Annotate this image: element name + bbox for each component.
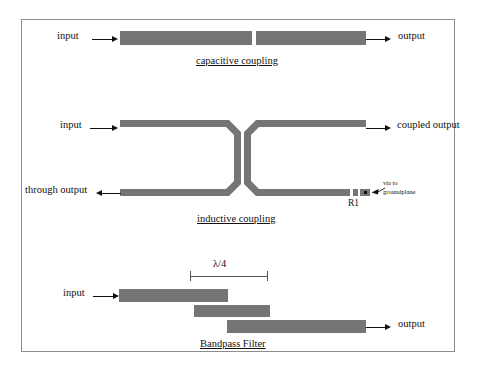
inductive-through-output-label: through output — [25, 185, 87, 196]
capacitive-output-arrow-icon — [385, 36, 391, 42]
capacitive-output-label: output — [398, 31, 425, 42]
capacitive-coupling-caption: capacitive coupling — [196, 56, 278, 67]
bandpass-output-label: output — [398, 319, 425, 330]
bandpass-output-arrow-icon — [385, 324, 391, 330]
inductive-input-leader — [90, 128, 114, 129]
dimension-tick-right — [267, 271, 268, 281]
resistor-label-r1: R1 — [348, 199, 359, 209]
bandpass-resonator-2 — [194, 305, 270, 317]
via-callout-line2: groundplane — [383, 188, 416, 196]
inductive-through-output-leader — [101, 193, 121, 194]
inductive-coupled-output-arrow-icon — [385, 125, 391, 131]
capacitive-input-leader — [92, 39, 114, 40]
capacitive-input-label: input — [57, 31, 79, 42]
bandpass-filter-caption: Bandpass Filter — [200, 339, 266, 350]
inductive-input-arrow-icon — [112, 125, 118, 131]
capacitive-trace-left — [120, 31, 252, 45]
dimension-tick-left — [190, 271, 191, 281]
bandpass-resonator-3 — [227, 320, 366, 333]
figure-canvas: input output capacitive coupling input c… — [0, 0, 477, 375]
capacitive-input-arrow-icon — [112, 36, 118, 42]
capacitive-trace-right — [256, 31, 366, 45]
quarter-wavelength-label: λ/4 — [213, 259, 226, 270]
bandpass-input-label: input — [63, 288, 85, 299]
dimension-line — [190, 276, 268, 277]
via-hole-icon — [364, 191, 367, 194]
bandpass-resonator-1 — [119, 289, 228, 302]
inductive-coupled-output-label: coupled output — [397, 120, 460, 131]
inductive-input-label: input — [60, 120, 82, 131]
via-callout-line1: via to — [383, 179, 398, 187]
inductive-coupling-caption: inductive coupling — [197, 214, 275, 225]
